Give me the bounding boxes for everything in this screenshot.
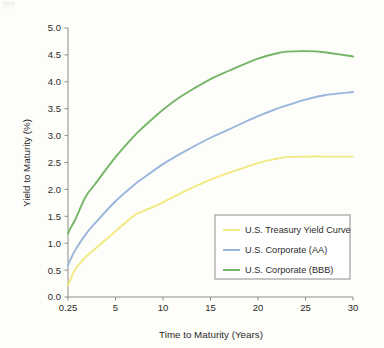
y-tick-label: 3.5 xyxy=(48,103,61,114)
y-tick-label: 3.0 xyxy=(48,130,61,141)
legend-item-label[interactable]: U.S. Corporate (AA) xyxy=(245,245,327,255)
chart-legend: U.S. Treasury Yield CurveU.S. Corporate … xyxy=(215,215,351,279)
y-tick-label: 4.0 xyxy=(48,76,61,87)
legend-item-label[interactable]: U.S. Treasury Yield Curve xyxy=(245,225,351,235)
chart-canvas: 0.00.51.01.52.02.53.03.54.04.55.0 0.2551… xyxy=(0,0,384,348)
x-axis-title: Time to Maturity (Years) xyxy=(159,329,263,340)
y-tick-label: 0.0 xyxy=(48,291,61,302)
y-tick-label: 1.0 xyxy=(48,238,61,249)
x-tick-label: 5 xyxy=(113,302,118,313)
x-tick-label: 15 xyxy=(205,302,216,313)
y-tick-label: 2.5 xyxy=(48,157,61,168)
x-axis: 0.2551015202530 xyxy=(59,297,359,313)
y-tick-label: 5.0 xyxy=(48,22,61,33)
x-tick-label: 30 xyxy=(348,302,359,313)
x-tick-label: 0.25 xyxy=(59,302,78,313)
y-tick-label: 4.5 xyxy=(48,49,61,60)
y-axis: 0.00.51.01.52.02.53.03.54.04.55.0 xyxy=(48,22,68,302)
yield-curve-chart: 0.00.51.01.52.02.53.03.54.04.55.0 0.2551… xyxy=(0,0,384,348)
y-axis-title: Yield to Maturity (%) xyxy=(21,119,32,207)
x-tick-label: 25 xyxy=(300,302,311,313)
legend-item-label[interactable]: U.S. Corporate (BBB) xyxy=(245,265,333,275)
y-tick-label: 2.0 xyxy=(48,184,61,195)
y-tick-label: 1.5 xyxy=(48,211,61,222)
x-tick-label: 10 xyxy=(158,302,169,313)
x-tick-label: 20 xyxy=(253,302,264,313)
y-tick-label: 0.5 xyxy=(48,265,61,276)
scan-artifact xyxy=(3,2,15,9)
